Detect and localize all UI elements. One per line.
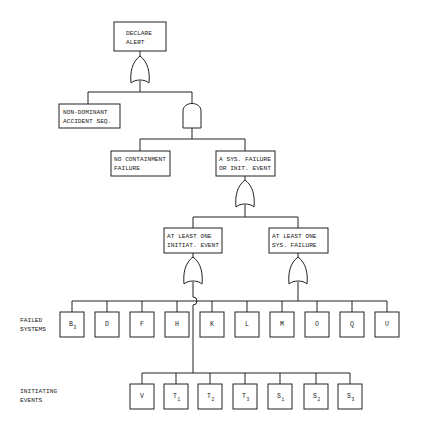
event-no-containment-failure: NO CONTAINMENT FAILURE	[111, 151, 170, 176]
non-dominant-line2: ACCIDENT SEQ.	[63, 118, 111, 125]
initiating-event-v: V	[130, 373, 154, 409]
failed-systems-line1: FAILED	[20, 317, 43, 324]
or-gate-icon	[131, 56, 149, 83]
failed-systems-line2: SYSTEMS	[20, 326, 46, 333]
top-event-line2: ALERT	[126, 39, 145, 46]
and-gate-icon	[183, 104, 201, 129]
initiating-event-t3: T3	[233, 373, 257, 409]
failed-system-o: O	[305, 301, 329, 337]
event-at-least-one-initiating-event: AT LEAST ONE INITIAT. EVENT	[164, 228, 222, 253]
leaf-label: M	[280, 321, 284, 328]
leaf-label: V	[140, 393, 144, 400]
leaf-label: K	[210, 321, 214, 328]
leaf-subscript: 3	[352, 397, 355, 402]
at-least-one-init-line2: INITIAT. EVENT	[167, 242, 219, 249]
top-event-line1: DECLARE	[126, 30, 152, 37]
initiating-event-t2: T2	[198, 373, 222, 409]
initiating-event-s2: S2	[304, 373, 328, 409]
at-least-one-sys-line2: SYS. FAILURE	[272, 242, 317, 249]
event-sys-failure-or-init-event: A SYS. FAILURE OR INIT. EVENT	[216, 151, 275, 176]
leaf-label: Q	[350, 321, 354, 328]
initiating-events-line2: EVENTS	[20, 397, 43, 404]
or-gate-icon	[289, 257, 307, 284]
failed-system-m: M	[270, 301, 294, 337]
failed-system-u: U	[375, 301, 399, 337]
leaf-subscript: 3	[247, 397, 250, 402]
leaf-label: L	[245, 321, 249, 328]
failed-system-l: L	[235, 301, 259, 337]
leaf-subscript: 3	[74, 325, 77, 330]
initiating-events-line1: INITIATING	[20, 388, 57, 395]
leaf-subscript: 2	[212, 397, 215, 402]
leaf-label: F	[140, 321, 144, 328]
leaf-label: B	[69, 321, 73, 328]
row-label-initiating-events: INITIATING EVENTS	[20, 388, 57, 404]
event-non-dominant-accident-seq: NON-DOMINANT ACCIDENT SEQ.	[59, 104, 120, 128]
sys-or-init-line1: A SYS. FAILURE	[219, 156, 271, 163]
no-containment-line2: FAILURE	[114, 165, 140, 172]
initiating-event-s3: S3	[338, 373, 362, 409]
row-label-failed-systems: FAILED SYSTEMS	[20, 317, 46, 333]
leaf-label: T	[207, 393, 211, 400]
at-least-one-init-line1: AT LEAST ONE	[167, 233, 212, 240]
leaf-subscript: 2	[318, 397, 321, 402]
failed-system-b3: B3	[60, 301, 84, 337]
leaf-label: T	[242, 393, 246, 400]
sys-or-init-line2: OR INIT. EVENT	[219, 165, 271, 172]
event-at-least-one-sys-failure: AT LEAST ONE SYS. FAILURE	[269, 228, 328, 253]
failed-system-h: H	[165, 301, 189, 337]
leaf-label: O	[315, 321, 319, 328]
leaf-label: H	[175, 321, 179, 328]
leaf-label: D	[105, 321, 109, 328]
or-gate-icon	[184, 257, 202, 284]
no-containment-line1: NO CONTAINMENT	[114, 156, 166, 163]
failed-system-q: Q	[340, 301, 364, 337]
failed-system-f: F	[130, 301, 154, 337]
at-least-one-sys-line1: AT LEAST ONE	[272, 233, 317, 240]
leaf-label: S	[313, 393, 317, 400]
failed-system-d: D	[95, 301, 119, 337]
leaf-label: T	[173, 393, 177, 400]
non-dominant-line1: NON-DOMINANT	[63, 109, 108, 116]
top-event-declare-alert: DECLARE ALERT	[114, 22, 166, 51]
failed-systems-row: B3DFHKLMOQU	[60, 301, 399, 337]
or-gate-icon	[236, 180, 254, 207]
initiating-event-s1: S1	[268, 373, 292, 409]
initiating-event-t1: T1	[164, 373, 188, 409]
leaf-subscript: 1	[282, 397, 285, 402]
leaf-label: U	[385, 321, 389, 328]
leaf-subscript: 1	[178, 397, 181, 402]
leaf-label: S	[347, 393, 351, 400]
leaf-label: S	[277, 393, 281, 400]
fault-tree-diagram: DECLARE ALERT NON-DOMINANT ACCIDENT SEQ.…	[0, 0, 423, 432]
initiating-events-row: VT1T2T3S1S2S3	[130, 373, 362, 409]
failed-system-k: K	[200, 301, 224, 337]
